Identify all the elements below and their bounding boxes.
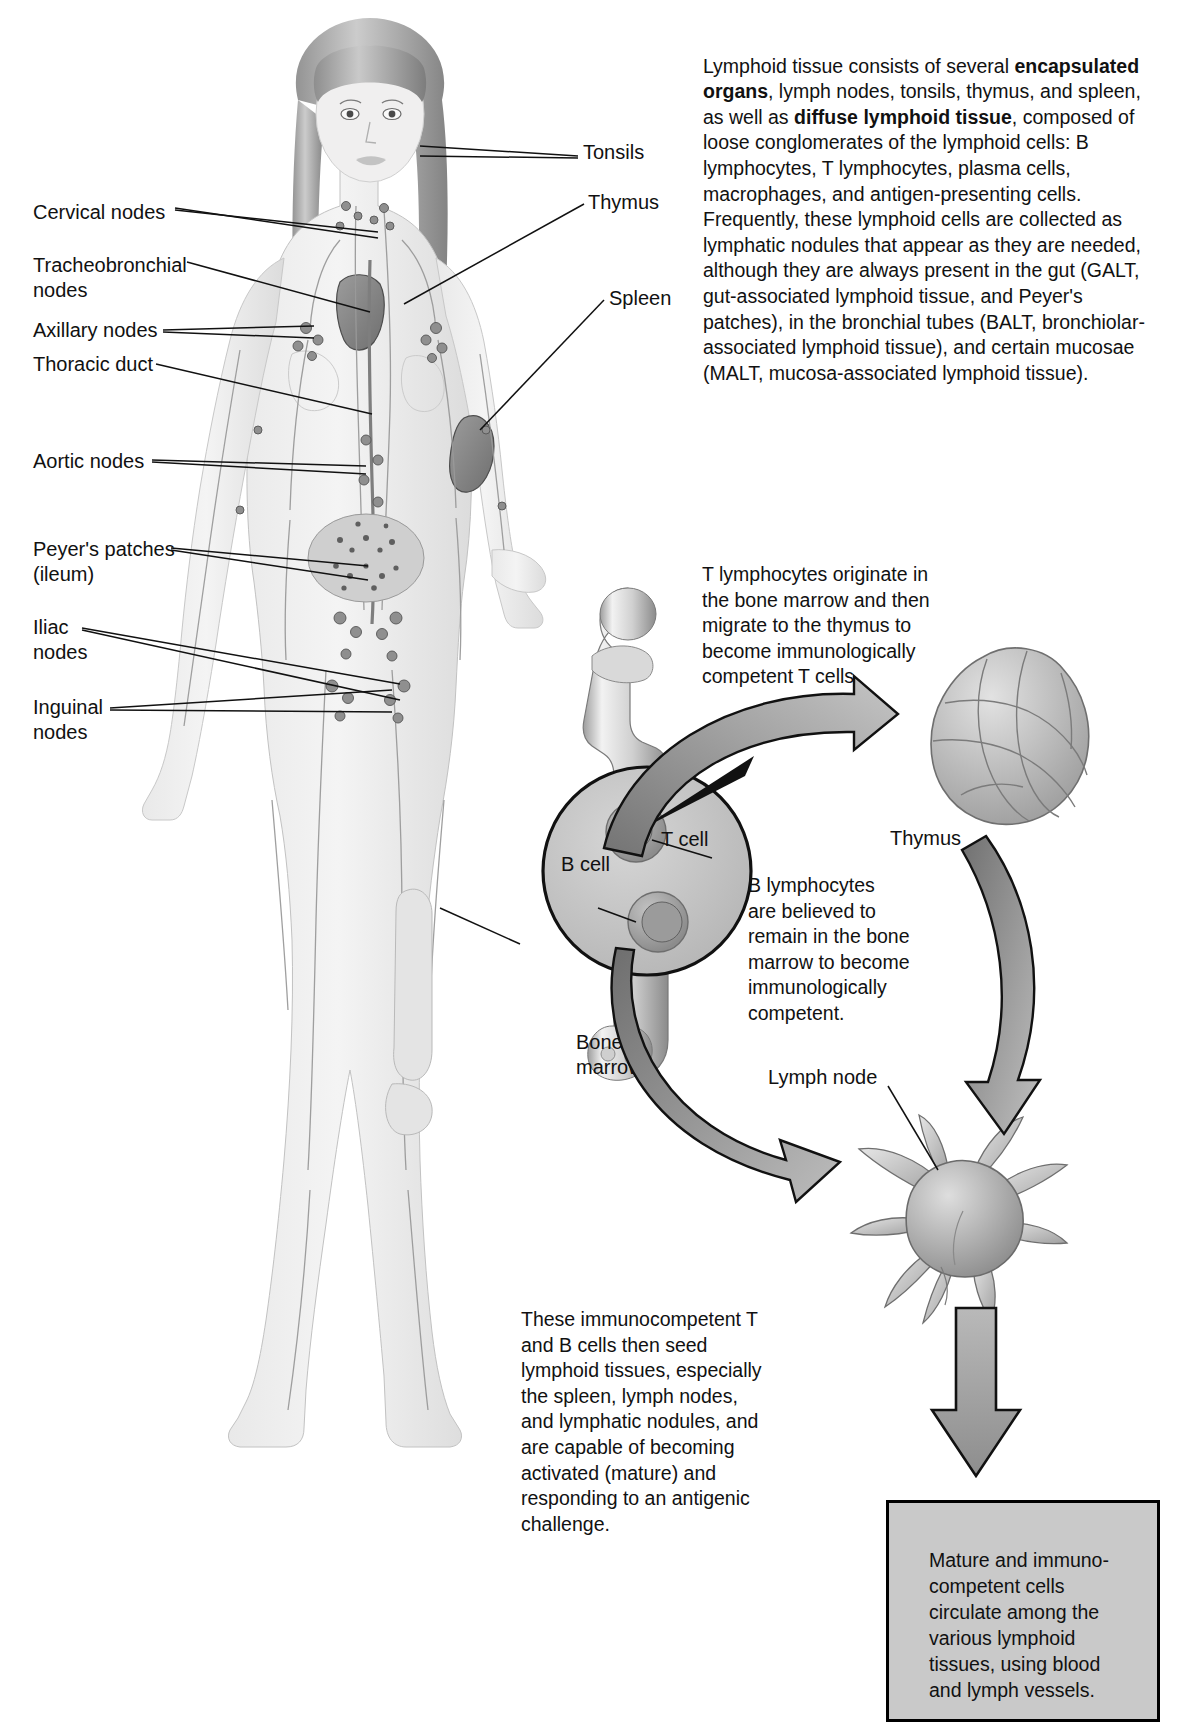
flow-arrow-marrow-to-lymph-node [600,940,900,1240]
label-cervical-nodes: Cervical nodes [33,200,165,225]
label-spleen: Spleen [609,286,671,311]
main-caption: Lymphoid tissue consists of several enca… [703,28,1161,386]
summary-box-text: Mature and immuno- competent cells circu… [929,1547,1134,1703]
label-peyers-patches: Peyer's patches (ileum) [33,537,175,587]
label-inguinal-nodes: Inguinal nodes [33,695,103,745]
label-tracheobronchial-nodes: Tracheobronchial nodes [33,253,187,303]
flow-arrow-to-summary-box [920,1300,1080,1510]
label-aortic-nodes: Aortic nodes [33,449,144,474]
summary-box: Mature and immuno- competent cells circu… [886,1500,1160,1722]
flow-arrow-thymus-to-lymph-node [960,830,1160,1180]
label-iliac-nodes: Iliac nodes [33,615,88,665]
caption-run-0: Lymphoid tissue consists of several [703,55,1014,77]
label-thoracic-duct: Thoracic duct [33,352,153,377]
caption-bold-diffuse-lymphoid-tissue: diffuse lymphoid tissue [794,106,1012,128]
caption-run-4: , composed of loose conglomerates of the… [703,106,1145,384]
seeding-caption: These immunocompetent T and B cells then… [521,1307,789,1537]
label-thymus-body: Thymus [588,190,659,215]
figure-canvas: Cervical nodes Tracheobronchial nodes Ax… [0,0,1177,1733]
label-axillary-nodes: Axillary nodes [33,318,158,343]
label-tonsils: Tonsils [583,140,644,165]
